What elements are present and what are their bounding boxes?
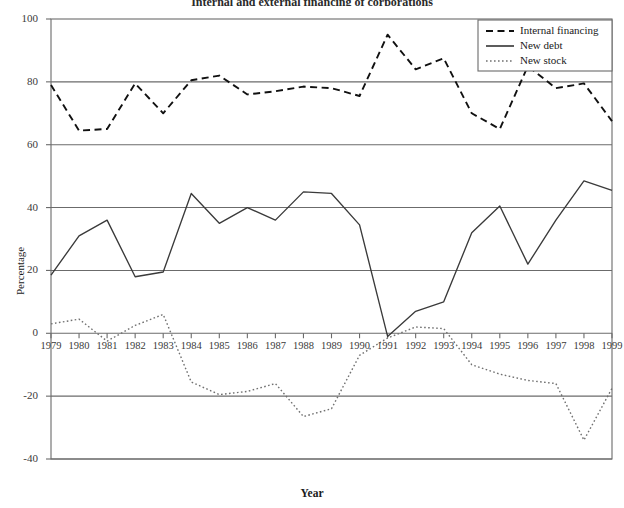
y-tick-label: 80: [4, 76, 38, 87]
series-line-1: [51, 181, 612, 337]
x-tick-label: 1988: [288, 340, 318, 351]
legend-label-0: Internal financing: [520, 24, 599, 36]
gridlines-group: [51, 82, 612, 459]
x-tick-label: 1999: [597, 340, 624, 351]
y-axis-ticks: [46, 19, 51, 459]
x-tick-label: 1994: [457, 340, 487, 351]
x-tick-label: 1985: [204, 340, 234, 351]
x-tick-label: 1991: [373, 340, 403, 351]
x-tick-label: 1983: [148, 340, 178, 351]
x-tick-label: 1989: [317, 340, 347, 351]
x-tick-label: 1996: [513, 340, 543, 351]
y-axis-title: Percentage: [14, 247, 26, 295]
x-tick-label: 1984: [176, 340, 206, 351]
x-tick-label: 1998: [569, 340, 599, 351]
plot-border: [51, 19, 612, 459]
y-tick-label: -20: [4, 390, 38, 401]
x-tick-label: 1987: [260, 340, 290, 351]
y-tick-label: 60: [4, 139, 38, 150]
x-tick-label: 1995: [485, 340, 515, 351]
x-tick-label: 1990: [345, 340, 375, 351]
x-tick-label: 1982: [120, 340, 150, 351]
legend-label-2: New stock: [520, 54, 567, 66]
x-tick-label: 1979: [36, 340, 66, 351]
chart-plot-area: [0, 0, 624, 508]
y-tick-label: 0: [4, 327, 38, 338]
x-axis-title: Year: [0, 487, 624, 499]
legend-label-1: New debt: [520, 39, 562, 51]
axis-frame: [51, 19, 612, 459]
x-tick-label: 1981: [92, 340, 122, 351]
y-tick-label: -40: [4, 453, 38, 464]
x-axis-ticks: [51, 333, 612, 338]
x-tick-label: 1997: [541, 340, 571, 351]
y-tick-label: 40: [4, 202, 38, 213]
y-tick-label: 100: [4, 13, 38, 24]
chart-container: Internal and external financing of corpo…: [0, 0, 624, 508]
x-tick-label: 1986: [232, 340, 262, 351]
x-tick-label: 1993: [429, 340, 459, 351]
data-series-group: [51, 35, 612, 440]
x-tick-label: 1980: [64, 340, 94, 351]
x-tick-label: 1992: [401, 340, 431, 351]
